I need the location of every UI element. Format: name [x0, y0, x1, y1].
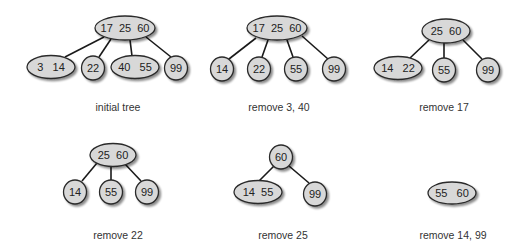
tree-edge: [289, 166, 309, 183]
tree-node: 22: [82, 56, 105, 80]
tree-node: 3 14: [27, 56, 75, 79]
panel-caption: remove 25: [258, 229, 308, 241]
tree-node: 40 55: [111, 56, 159, 79]
node-keys: 22: [253, 63, 265, 75]
panel-remove-3-40: 17 25 6014225599 remove 3, 40: [211, 16, 346, 113]
tree-node: 22: [248, 57, 271, 81]
node-keys: 17 25 60: [101, 22, 150, 34]
node-keys: 55: [290, 63, 302, 75]
node-keys: 14 55: [243, 186, 274, 198]
tree-edge: [463, 40, 482, 59]
tree-node: 17 25 60: [95, 16, 155, 40]
panel-initial-tree: 17 25 603 142240 5599 initial tree: [27, 16, 188, 113]
tree-edge: [99, 39, 111, 57]
tree-node: 99: [165, 56, 188, 80]
node-keys: 22: [87, 62, 99, 74]
tree-node: 14 55: [234, 181, 282, 204]
tree-edge: [259, 166, 274, 181]
tree-node: 99: [304, 182, 327, 206]
tree-node: 99: [477, 58, 500, 82]
node-keys: 14: [69, 186, 81, 198]
tree-node: 14: [211, 57, 234, 81]
nodes: 17 25 603 142240 5599: [27, 16, 188, 80]
panel-remove-14-99: 55 60 remove 14, 99: [419, 182, 486, 241]
node-keys: 14 22: [381, 62, 415, 74]
node-keys: 60: [275, 151, 287, 163]
node-keys: 25 60: [431, 25, 462, 37]
tree-node: 55: [433, 58, 456, 82]
panel-remove-22: 25 60145599 remove 22: [64, 144, 159, 242]
tree-edge: [410, 40, 429, 58]
nodes: 17 25 6014225599: [211, 16, 346, 81]
tree-node: 99: [136, 180, 159, 204]
node-keys: 99: [170, 62, 182, 74]
node-keys: 17 25 60: [253, 22, 302, 34]
node-keys: 99: [309, 188, 321, 200]
tree-node: 99: [323, 57, 346, 81]
panel-caption: initial tree: [96, 101, 141, 113]
tree-node: 55 60: [428, 182, 476, 204]
tree-node: 55: [285, 57, 308, 81]
tree-edge: [125, 164, 141, 181]
node-keys: 40 55: [118, 61, 152, 73]
node-keys: 25 60: [98, 149, 129, 161]
tree-node: 25 60: [90, 144, 136, 167]
node-keys: 3 14: [37, 61, 65, 73]
node-keys: 99: [482, 64, 494, 76]
nodes: 25 6014 225599: [374, 19, 500, 82]
tree-node: 55: [100, 180, 123, 204]
node-keys: 55: [438, 64, 450, 76]
tree-edge: [146, 37, 171, 57]
tree-edge: [65, 37, 104, 57]
node-keys: 99: [141, 186, 153, 198]
tree-node: 14 22: [374, 57, 422, 80]
panel-caption: remove 3, 40: [248, 101, 309, 113]
panel-remove-17: 25 6014 225599 remove 17: [374, 19, 500, 113]
tree-edge: [130, 40, 132, 56]
panel-caption: remove 17: [419, 101, 469, 113]
tree-edge: [262, 40, 268, 57]
node-keys: 14: [216, 63, 228, 75]
tree-node: 60: [270, 145, 293, 169]
node-keys: 55: [105, 186, 117, 198]
tree-edge: [82, 163, 97, 181]
nodes: 6014 5599: [234, 145, 327, 206]
panel-caption: remove 14, 99: [419, 229, 486, 241]
tree-node: 17 25 60: [247, 16, 307, 40]
node-keys: 55 60: [435, 187, 469, 199]
panel-remove-25: 6014 5599 remove 25: [234, 145, 327, 241]
node-keys: 99: [328, 63, 340, 75]
tree-edge: [302, 36, 328, 59]
tree-node: 25 60: [422, 19, 470, 43]
tree-edge: [229, 38, 256, 59]
nodes: 55 60: [428, 182, 476, 204]
btree-deletion-diagram: 17 25 603 142240 5599 initial tree 17 25…: [0, 0, 522, 250]
tree-edge: [287, 40, 293, 57]
panel-caption: remove 22: [93, 229, 143, 241]
tree-node: 14: [64, 180, 87, 204]
